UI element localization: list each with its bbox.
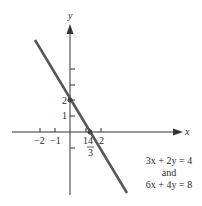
y-intercept-point	[68, 98, 73, 103]
tick-label-y-2: 2	[62, 95, 67, 106]
y-axis-label: y	[67, 10, 73, 21]
tick-label-x-neg1: −1	[50, 135, 61, 146]
tick-label-x-2: 2	[99, 135, 104, 146]
equation-2: 6x + 4y = 8	[138, 179, 200, 191]
fraction-numerator: 4	[88, 135, 93, 146]
tick-label-y-1: 1	[62, 110, 67, 121]
fraction-denominator: 3	[88, 147, 93, 158]
graph-line	[35, 40, 127, 193]
equation-legend: 3x + 2y = 4 and 6x + 4y = 8	[138, 155, 200, 191]
equation-and: and	[138, 167, 200, 179]
tick-label-x-neg2: −2	[34, 135, 45, 146]
equation-1: 3x + 2y = 4	[138, 155, 200, 167]
y-axis-arrow-icon	[67, 24, 74, 34]
x-intercept-point	[88, 130, 93, 135]
x-axis-label: x	[184, 126, 190, 137]
x-axis-arrow-icon	[173, 129, 183, 136]
